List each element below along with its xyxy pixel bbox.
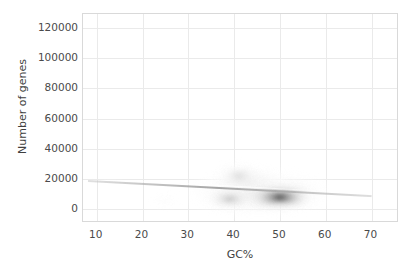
density-contour-secondary-mode-level-2 xyxy=(221,197,238,201)
y-tick-label-0: 0 xyxy=(4,202,78,214)
density-contour-faint-wisp-level-2 xyxy=(156,198,176,203)
x-tick-label-60: 60 xyxy=(318,228,331,240)
density-contour-tertiary-mode-level-5 xyxy=(216,167,262,186)
density-contour-envelope-level-4 xyxy=(197,175,322,211)
x-tick-label-50: 50 xyxy=(272,228,285,240)
y-axis-title: Number of genes xyxy=(16,42,29,172)
density-contour-primary-mode-level-2 xyxy=(272,196,287,199)
density-contour-secondary-mode-level-3 xyxy=(217,196,243,202)
density-contour-primary-mode-level-4 xyxy=(265,194,295,200)
x-axis-title: GC% xyxy=(82,248,398,261)
density-contour-primary-mode-level-9 xyxy=(246,191,314,204)
density-contour-primary-mode-level-8 xyxy=(250,192,310,204)
density-contour-tertiary-mode-level-3 xyxy=(225,170,253,181)
density-contour-tertiary-mode-level-4 xyxy=(220,169,257,184)
x-tick-label-30: 30 xyxy=(181,228,194,240)
x-tick-label-70: 70 xyxy=(364,228,377,240)
density-contour-secondary-mode-level-4 xyxy=(213,195,247,204)
density-contour-tertiary-mode-level-1 xyxy=(234,174,243,178)
density-contour-envelope-level-5 xyxy=(181,170,337,215)
density-contour-envelope-level-3 xyxy=(213,179,306,206)
plot-area xyxy=(82,13,398,222)
x-tick-label-10: 10 xyxy=(89,228,102,240)
density-contour-secondary-mode-level-5 xyxy=(208,194,251,205)
density-contour-primary-mode-level-1 xyxy=(276,197,284,198)
density-contour-faint-wisp-level-1 xyxy=(160,199,170,202)
density-contour-primary-mode-level-7 xyxy=(254,192,307,202)
x-axis-tick-labels: 10203040506070 xyxy=(82,228,398,244)
density-contour-upper-shoulder-level-2 xyxy=(224,172,268,189)
density-contour-upper-shoulder-level-4 xyxy=(202,164,289,197)
ridge-line-highlight xyxy=(88,178,372,194)
density-contour-primary-mode-level-6 xyxy=(257,193,302,202)
kde-density-plot-figure: 020000400006000080000100000120000 102030… xyxy=(0,0,417,275)
density-contour-secondary-mode-level-1 xyxy=(225,198,234,200)
density-contour-upper-shoulder-level-3 xyxy=(213,168,278,193)
density-contour-primary-mode-level-5 xyxy=(261,194,299,201)
y-tick-label-120000: 120000 xyxy=(4,21,78,33)
y-axis-tick-labels: 020000400006000080000100000120000 xyxy=(0,13,78,222)
density-contour-layer xyxy=(83,14,397,221)
ridge-line xyxy=(88,180,372,197)
x-tick-label-40: 40 xyxy=(226,228,239,240)
density-contour-envelope-level-1 xyxy=(244,188,275,197)
x-tick-label-20: 20 xyxy=(135,228,148,240)
density-contour-tertiary-mode-level-2 xyxy=(230,172,248,180)
density-contour-faint-wisp-level-3 xyxy=(151,196,180,204)
y-tick-label-20000: 20000 xyxy=(4,172,78,184)
density-contour-secondary-mode-level-6 xyxy=(204,192,255,205)
density-contour-primary-mode-level-3 xyxy=(269,195,292,199)
density-contour-envelope-level-2 xyxy=(228,184,290,202)
density-contour-upper-shoulder-level-1 xyxy=(235,176,257,184)
